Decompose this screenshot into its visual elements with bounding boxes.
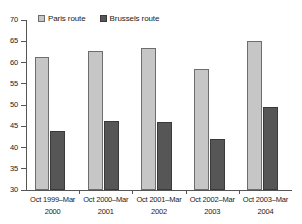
bar-chart: Paris route Brussels route 7065605550454… [0,0,302,224]
bar-brussels-route [210,139,225,190]
y-axis-tick-label: 70 [0,14,18,25]
x-axis-label-line2: 2000 [26,206,79,218]
x-axis-label-line2: 2003 [186,206,239,218]
bar-group [26,20,79,190]
x-axis-label: Oct 2003–Mar2004 [239,194,292,218]
bar-brussels-route [50,131,65,190]
x-axis-label-line1: Oct 2003–Mar [243,195,288,204]
x-axis-label: Oct 2002–Mar2003 [186,194,239,218]
bar-brussels-route [157,122,172,190]
x-axis-label-line1: Oct 1999–Mar [30,195,75,204]
x-axis-label: Oct 2000–Mar2001 [79,194,132,218]
x-axis-label-line1: Oct 2002–Mar [190,195,235,204]
x-axis-label-line1: Oct 2001–Mar [136,195,181,204]
bar-group [79,20,132,190]
bar-paris-route [141,48,156,190]
x-axis-label-line1: Oct 2000–Mar [83,195,128,204]
bar-paris-route [35,57,50,190]
y-axis-tick-label: 65 [0,35,18,46]
bar-brussels-route [263,107,278,190]
x-axis-line [26,190,292,191]
bar-paris-route [194,69,209,190]
y-axis-tick-label: 30 [0,184,18,195]
x-axis-label-line2: 2001 [79,206,132,218]
bar-group [239,20,292,190]
bar-brussels-route [104,121,119,190]
x-axis-label: Oct 1999–Mar2000 [26,194,79,218]
x-axis-labels: Oct 1999–Mar2000Oct 2000–Mar2001Oct 2001… [26,194,292,218]
x-axis-label: Oct 2001–Mar2002 [132,194,185,218]
bar-groups [26,20,292,190]
y-axis-tick-label: 55 [0,78,18,89]
bar-paris-route [247,41,262,190]
y-axis-tick-label: 35 [0,163,18,174]
bar-group [186,20,239,190]
y-axis-tick-label: 40 [0,142,18,153]
y-axis-tick-label: 60 [0,57,18,68]
y-axis-tick-label: 45 [0,120,18,131]
x-axis-label-line2: 2002 [132,206,185,218]
bar-paris-route [88,51,103,190]
x-axis-label-line2: 2004 [239,206,292,218]
bar-group [132,20,185,190]
y-axis-tick-label: 50 [0,99,18,110]
